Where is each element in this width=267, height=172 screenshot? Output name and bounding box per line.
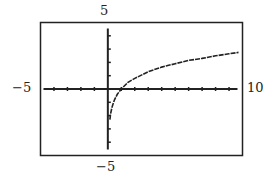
y-max-label: 5: [100, 4, 108, 17]
x-max-label: 10: [247, 81, 264, 94]
y-min-label: −5: [96, 160, 115, 172]
x-min-label: −5: [12, 81, 31, 94]
curve-line: [110, 52, 239, 119]
axes: [44, 29, 238, 150]
plot-area: [0, 0, 267, 172]
